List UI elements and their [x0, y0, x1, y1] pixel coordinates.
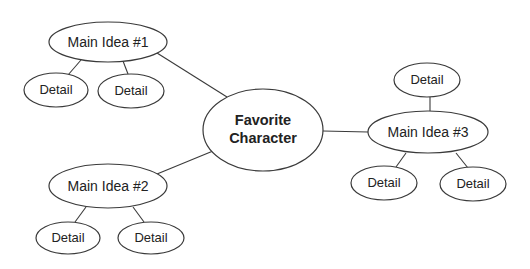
main-idea-1-detail-1: Detail [24, 73, 88, 107]
edge-center-main2 [157, 151, 213, 174]
main-idea-3-detail-left: Detail [351, 166, 417, 200]
main-idea-3-node: Main Idea #3 [368, 111, 488, 153]
edge-center-main3 [323, 131, 368, 132]
main-idea-3-label: Main Idea #3 [388, 124, 469, 140]
detail-label: Detail [134, 230, 167, 245]
center-label-line1: Favorite [235, 112, 291, 128]
edge-center-main1 [157, 53, 227, 97]
edge-main1-detail1 [68, 60, 81, 75]
detail-label: Detail [114, 83, 147, 98]
edge-main3-detail-right [456, 153, 468, 168]
main-idea-2-label: Main Idea #2 [68, 178, 149, 194]
detail-label: Detail [39, 82, 72, 97]
main-idea-2-node: Main Idea #2 [49, 164, 167, 208]
main-idea-2-detail-2: Detail [118, 222, 184, 254]
center-node: Favorite Character [203, 89, 323, 171]
detail-label: Detail [410, 72, 443, 87]
main-idea-1-node: Main Idea #1 [49, 22, 167, 62]
center-label-line2: Character [229, 130, 297, 146]
edge-main1-detail2 [123, 61, 128, 74]
main-idea-3-detail-right: Detail [440, 167, 506, 201]
main-idea-1-label: Main Idea #1 [68, 34, 149, 50]
main-idea-1-detail-2: Detail [98, 74, 164, 108]
edge-main2-detail1 [75, 207, 86, 222]
edge-main3-detail-left [396, 153, 406, 167]
detail-label: Detail [367, 175, 400, 190]
main-idea-2-detail-1: Detail [36, 222, 100, 254]
detail-label: Detail [51, 230, 84, 245]
main-idea-3-detail-top: Detail [394, 63, 460, 97]
detail-label: Detail [456, 176, 489, 191]
edge-main2-detail2 [133, 207, 144, 222]
web-organizer-diagram: Favorite Character Main Idea #1 Detail D… [0, 0, 530, 269]
